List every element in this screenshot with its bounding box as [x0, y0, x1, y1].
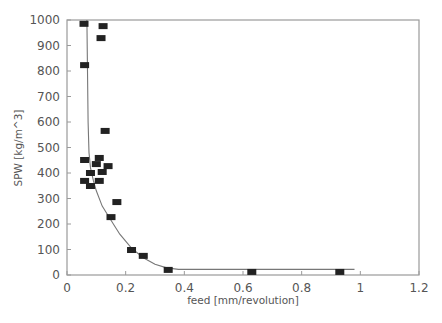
fit-curve: [87, 20, 355, 269]
data-point: [95, 155, 104, 161]
data-point: [97, 35, 106, 41]
data-point: [80, 62, 89, 68]
data-point: [86, 183, 95, 189]
data-point: [99, 23, 108, 29]
y-tick-label: 500: [37, 141, 60, 155]
y-tick-label: 800: [37, 64, 60, 78]
y-tick-label: 200: [37, 217, 60, 231]
x-tick-label: 0.4: [175, 281, 194, 295]
data-point: [127, 247, 136, 253]
y-axis-label: SPW [kg/m^3]: [12, 110, 24, 187]
x-tick-label: 0: [63, 281, 71, 295]
data-point: [247, 269, 256, 275]
plot-frame: [67, 20, 419, 275]
y-tick-label: 300: [37, 192, 60, 206]
data-point: [107, 214, 116, 220]
x-tick-label: 0.8: [292, 281, 311, 295]
data-point: [112, 199, 121, 205]
data-point: [80, 157, 89, 163]
y-axis: 01002003004005006007008009001000: [29, 13, 71, 282]
y-tick-label: 600: [37, 115, 60, 129]
y-tick-label: 100: [37, 243, 60, 257]
y-tick-label: 0: [52, 268, 60, 282]
data-point: [104, 163, 113, 169]
x-tick-label: 1.2: [409, 281, 428, 295]
scatter-chart: 00.20.40.60.811.2 0100200300400500600700…: [0, 0, 442, 323]
plot-area: [80, 20, 355, 275]
y-tick-label: 1000: [29, 13, 60, 27]
y-tick-label: 900: [37, 39, 60, 53]
data-point: [92, 161, 101, 167]
x-tick-label: 0.6: [233, 281, 252, 295]
data-point: [98, 169, 107, 175]
data-point: [86, 170, 95, 176]
data-point: [101, 128, 110, 134]
data-point: [80, 21, 89, 27]
x-tick-label: 1: [357, 281, 365, 295]
data-point: [164, 267, 173, 273]
data-point: [139, 253, 148, 259]
x-axis-label: feed [mm/revolution]: [187, 294, 299, 306]
y-tick-label: 400: [37, 166, 60, 180]
data-point: [335, 269, 344, 275]
x-tick-label: 0.2: [116, 281, 135, 295]
y-tick-label: 700: [37, 90, 60, 104]
data-point: [95, 178, 104, 184]
plot-border: [67, 20, 419, 275]
